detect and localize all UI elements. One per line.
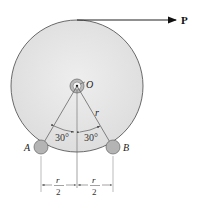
- roller-a: [34, 140, 48, 154]
- radius-label: r: [95, 107, 99, 118]
- roller-a-label: A: [23, 142, 31, 153]
- disk-roller-diagram: P O r 30° 30° A B r 2 r 2: [0, 0, 198, 212]
- force-label: P: [181, 14, 188, 26]
- center-label: O: [86, 79, 93, 90]
- roller-b-label: B: [123, 142, 129, 153]
- angle-label-left: 30°: [55, 132, 69, 143]
- dim-right-numerator: r: [92, 175, 96, 185]
- dim-left-denominator: 2: [56, 187, 61, 197]
- roller-b: [106, 140, 120, 154]
- dim-left-numerator: r: [56, 175, 60, 185]
- dim-right-denominator: 2: [92, 187, 97, 197]
- angle-label-right: 30°: [84, 132, 98, 143]
